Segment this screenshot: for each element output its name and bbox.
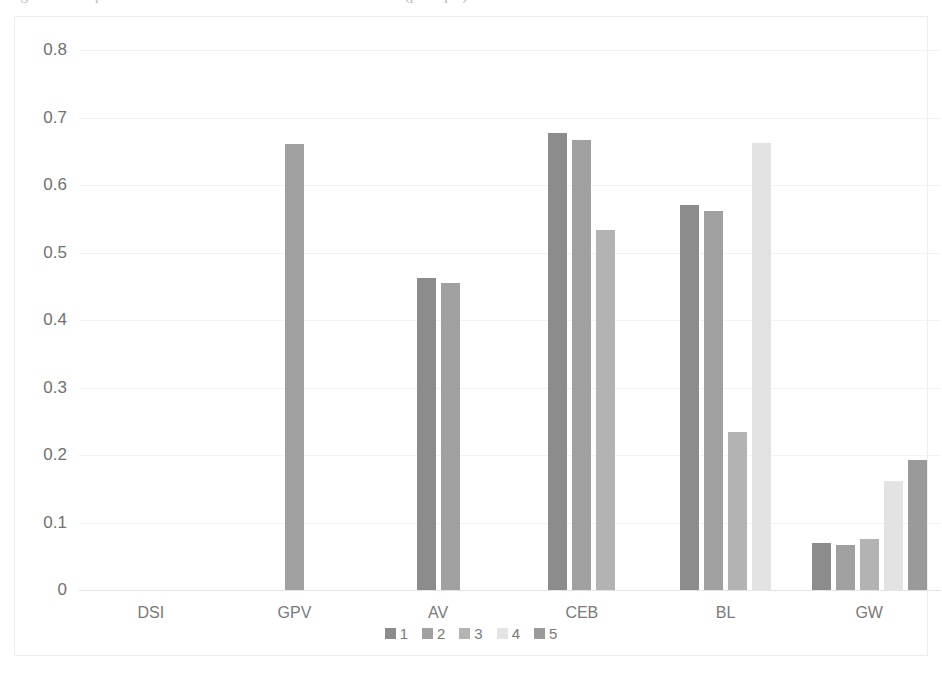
x-axis-tick-label: DSI: [79, 604, 223, 622]
x-axis-tick-label: CEB: [510, 604, 654, 622]
x-axis-tick-label: GW: [797, 604, 941, 622]
legend-swatch-icon: [459, 628, 470, 639]
bar-groups: DSIGPVAVCEBBLGW: [79, 50, 941, 590]
bar: [417, 278, 436, 590]
legend-swatch-icon: [497, 628, 508, 639]
legend-swatch-icon: [385, 628, 396, 639]
y-axis-tick-label: 0.1: [43, 513, 67, 533]
plot-area: 0.80.70.60.50.40.30.20.10 DSIGPVAVCEBBLG…: [79, 50, 941, 590]
y-axis-tick-label: 0.5: [43, 243, 67, 263]
bar: [680, 205, 699, 590]
bar: [884, 481, 903, 590]
bar: [752, 143, 771, 590]
bar: [285, 144, 304, 590]
legend-label: 1: [400, 626, 408, 641]
bar: [548, 133, 567, 590]
bar: [836, 545, 855, 590]
bar-group: DSI: [79, 50, 223, 590]
bar-group: GW: [797, 50, 941, 590]
bar-group: GPV: [223, 50, 367, 590]
caption-text: Figure 3. Comparison of retrieval effect…: [8, 0, 471, 4]
y-axis-tick-label: 0.7: [43, 108, 67, 128]
bar: [596, 230, 615, 590]
y-axis-tick-label: 0.6: [43, 175, 67, 195]
legend-item[interactable]: 5: [534, 626, 557, 641]
legend-swatch-icon: [534, 628, 545, 639]
chart-container: 0.80.70.60.50.40.30.20.10 DSIGPVAVCEBBLG…: [14, 16, 928, 656]
legend-label: 4: [512, 626, 520, 641]
bar-group: AV: [366, 50, 510, 590]
legend-item[interactable]: 3: [459, 626, 482, 641]
y-axis-tick-label: 0.8: [43, 40, 67, 60]
bar-group: BL: [654, 50, 798, 590]
legend-label: 5: [549, 626, 557, 641]
chart-legend: 12345: [15, 626, 927, 641]
bar: [860, 539, 879, 590]
bar: [704, 211, 723, 590]
legend-item[interactable]: 2: [422, 626, 445, 641]
legend-label: 3: [474, 626, 482, 641]
y-axis-tick-label: 0.2: [43, 445, 67, 465]
cutoff-caption: Figure 3. Comparison of retrieval effect…: [0, 0, 942, 14]
legend-label: 2: [437, 626, 445, 641]
x-axis-tick-label: BL: [654, 604, 798, 622]
legend-item[interactable]: 4: [497, 626, 520, 641]
axis-baseline: 0: [79, 590, 941, 591]
bar: [908, 460, 927, 590]
bar: [441, 283, 460, 590]
legend-item[interactable]: 1: [385, 626, 408, 641]
bar: [728, 432, 747, 590]
y-axis-tick-label: 0.4: [43, 310, 67, 330]
x-axis-tick-label: GPV: [223, 604, 367, 622]
y-axis-tick-label: 0: [58, 580, 67, 600]
bar: [572, 140, 591, 590]
bar-group: CEB: [510, 50, 654, 590]
bar: [812, 543, 831, 590]
legend-swatch-icon: [422, 628, 433, 639]
x-axis-tick-label: AV: [366, 604, 510, 622]
y-axis-tick-label: 0.3: [43, 378, 67, 398]
